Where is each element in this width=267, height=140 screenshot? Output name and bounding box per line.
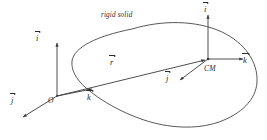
rigid-solid-outline [72,23,257,128]
inertial-i-vector-label: i [36,34,38,43]
rigid-solid-caption: rigid solid [101,12,132,19]
position-vector-label: r [110,58,113,67]
center-of-mass-label: CM [204,65,216,73]
figure-root: rigid solid i j k O r i j k CM [0,0,267,140]
body-i-vector-label: i [204,5,206,14]
body-k-vector-label: k [243,56,247,65]
inertial-j-vector-label: j [11,96,13,105]
center-of-mass-point [207,58,210,61]
rigid-solid-diagram [0,0,267,140]
inertial-k-vector-label: k [87,93,91,102]
body-j-vector-label: j [166,74,168,83]
origin-label: O [48,97,53,105]
